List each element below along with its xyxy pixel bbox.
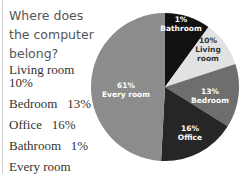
slice-label-living-name2: room xyxy=(197,54,219,63)
pie-chart: 1% Bathroom 10% Living room 13% Bedroom … xyxy=(0,0,243,174)
slice-label-every-room-name: Every room xyxy=(102,90,150,99)
slice-label-bedroom-name: Bedroom xyxy=(191,96,229,105)
slice-label-living-name1: Living xyxy=(195,45,221,54)
slice-label-every-room-pct: 61% xyxy=(117,81,135,90)
slice-label-bedroom-pct: 13% xyxy=(201,87,219,96)
slice-label-living-pct: 10% xyxy=(199,36,217,45)
slice-label-bathroom-name: Bathroom xyxy=(160,24,202,33)
slice-label-office-name: Office xyxy=(178,133,202,142)
slice-label-office-pct: 16% xyxy=(181,124,199,133)
slice-label-bathroom-pct: 1% xyxy=(175,15,188,24)
